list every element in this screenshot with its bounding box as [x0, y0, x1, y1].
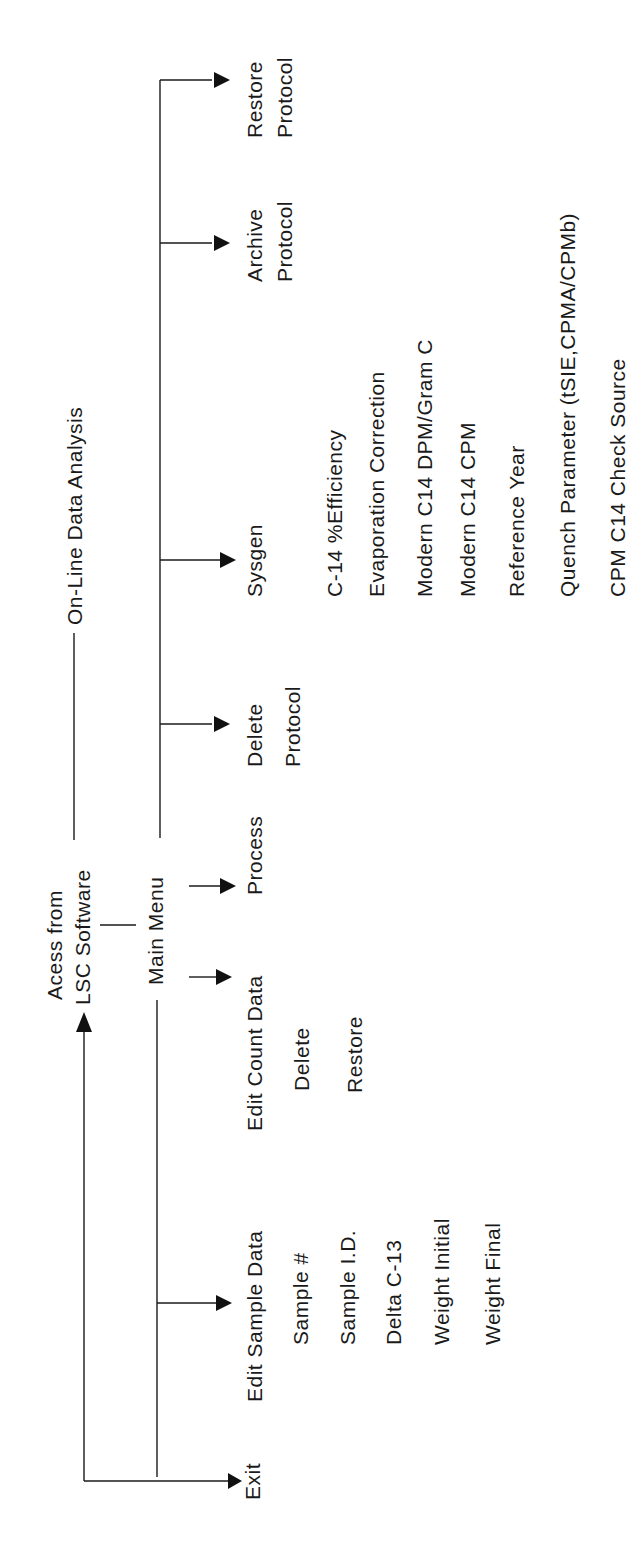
- count-data-option: Delete: [290, 1027, 313, 1091]
- sysgen-setting: Quench Parameter (tSIE,CPMA/CPMb): [556, 213, 579, 597]
- menu-item-edit-count-data[interactable]: Edit Count Data: [243, 975, 266, 1131]
- sample-data-field: Weight Initial: [430, 1218, 453, 1345]
- arrow-sysgen-icon: [220, 552, 236, 568]
- sysgen-setting: CPM C14 Check Source: [606, 358, 629, 597]
- arrow-process-icon: [220, 878, 236, 894]
- sysgen-setting: Reference Year: [505, 445, 528, 597]
- sysgen-setting: C-14 %Efficiency: [323, 429, 346, 597]
- menu-item-edit-sample-data[interactable]: Edit Sample Data: [243, 1231, 266, 1402]
- menu-item-sysgen[interactable]: Sysgen: [243, 524, 266, 597]
- sample-data-field: Sample #: [289, 1252, 312, 1345]
- menu-item-restore-protocol-line1[interactable]: Restore: [243, 61, 266, 138]
- diagram-title: On-Line Data Analysis: [63, 407, 86, 625]
- menu-item-delete-protocol-line1[interactable]: Delete: [243, 703, 266, 767]
- main-menu-label: Main Menu: [144, 877, 167, 985]
- sample-data-field: Weight Final: [481, 1223, 504, 1345]
- sample-data-field: Delta C-13: [382, 1240, 405, 1345]
- menu-item-restore-protocol-line2[interactable]: Protocol: [273, 57, 296, 138]
- arrow-delete-protocol-icon: [214, 716, 230, 732]
- arrow-archive-protocol-icon: [214, 235, 230, 251]
- arrow-restore-protocol-icon: [214, 72, 230, 88]
- sysgen-setting: Modern C14 DPM/Gram C: [413, 339, 436, 597]
- entry-label-line1: Acess from: [43, 890, 66, 1000]
- menu-item-delete-protocol-line2[interactable]: Protocol: [281, 686, 304, 767]
- entry-label-line2: LSC Software: [71, 869, 94, 1005]
- menu-item-archive-protocol-line2[interactable]: Protocol: [273, 201, 296, 282]
- menu-item-process[interactable]: Process: [243, 816, 266, 895]
- menu-item-archive-protocol-line1[interactable]: Archive: [243, 208, 266, 282]
- sysgen-setting: Modern C14 CPM: [456, 422, 479, 597]
- sample-data-field: Sample I.D.: [336, 1230, 359, 1345]
- arrow-up-to-entry-icon: [76, 1012, 92, 1032]
- sysgen-setting: Evaporation Correction: [365, 371, 388, 597]
- count-data-option: Restore: [343, 1016, 366, 1093]
- arrow-exit-icon: [228, 1473, 242, 1489]
- menu-flow-diagram: On-Line Data Analysis Acess from LSC Sof…: [0, 0, 641, 1547]
- arrow-edit-count-data-icon: [216, 969, 232, 985]
- arrow-edit-sample-data-icon: [216, 1295, 232, 1311]
- menu-item-exit[interactable]: Exit: [241, 1463, 264, 1500]
